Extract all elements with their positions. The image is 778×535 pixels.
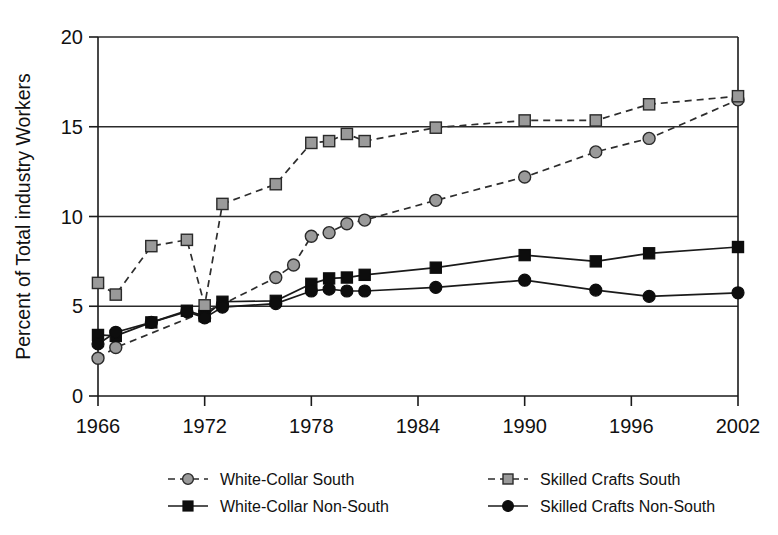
data-point [145, 316, 157, 328]
data-point [270, 298, 282, 310]
data-point [359, 269, 370, 280]
data-point [430, 262, 441, 273]
data-point [92, 338, 104, 350]
x-tick-label-1984: 1984 [396, 415, 441, 437]
data-point [732, 91, 743, 102]
x-tick-label-1966: 1966 [76, 415, 121, 437]
data-point [110, 289, 121, 300]
data-point [305, 285, 317, 297]
data-point [341, 128, 352, 139]
data-point [146, 241, 157, 252]
y-tick-label-20: 20 [61, 26, 83, 48]
data-point [590, 284, 602, 296]
x-tick-label-1990: 1990 [502, 415, 547, 437]
data-point [643, 132, 655, 144]
chart-background [0, 0, 778, 535]
data-point [92, 352, 104, 364]
data-point [305, 230, 317, 242]
data-point [590, 256, 601, 267]
data-point [732, 241, 743, 252]
data-point [359, 136, 370, 147]
y-tick-label-0: 0 [72, 385, 83, 407]
data-point [430, 194, 442, 206]
y-axis-title: Percent of Total industry Workers [12, 73, 34, 360]
data-point [324, 273, 335, 284]
data-point [341, 218, 353, 230]
legend-label: Skilled Crafts Non-South [540, 498, 715, 515]
data-point [92, 277, 103, 288]
data-point [288, 259, 300, 271]
data-point [181, 234, 192, 245]
data-point [430, 122, 441, 133]
line-chart: 05101520 1966197219781984199019962002 Pe… [0, 0, 778, 535]
data-point [306, 137, 317, 148]
legend-marker [183, 474, 194, 485]
data-point [199, 300, 210, 311]
legend-marker [503, 501, 514, 512]
y-tick-label-10: 10 [61, 206, 83, 228]
y-tick-label-15: 15 [61, 116, 83, 138]
x-tick-label-1972: 1972 [182, 415, 227, 437]
x-tick-label-2002: 2002 [716, 415, 761, 437]
data-point [643, 290, 655, 302]
y-tick-label-5: 5 [72, 295, 83, 317]
data-point [644, 248, 655, 259]
legend-marker [503, 474, 513, 484]
legend-label: White-Collar Non-South [220, 498, 389, 515]
data-point [644, 99, 655, 110]
legend-label: Skilled Crafts South [540, 471, 681, 488]
data-point [519, 249, 530, 260]
data-point [359, 214, 371, 226]
data-point [341, 285, 353, 297]
data-point [341, 272, 352, 283]
data-point [270, 179, 281, 190]
chart-figure: 05101520 1966197219781984199019962002 Pe… [0, 0, 778, 535]
data-point [590, 115, 601, 126]
data-point [732, 287, 744, 299]
data-point [199, 312, 211, 324]
x-tick-label-1996: 1996 [609, 415, 654, 437]
data-point [324, 136, 335, 147]
data-point [110, 342, 122, 354]
x-tick-label-1978: 1978 [289, 415, 334, 437]
data-point [359, 285, 371, 297]
data-point [519, 115, 530, 126]
data-point [181, 306, 193, 318]
data-point [323, 283, 335, 295]
data-point [519, 274, 531, 286]
data-point [216, 301, 228, 313]
legend-label: White-Collar South [220, 471, 354, 488]
data-point [430, 281, 442, 293]
data-point [270, 272, 282, 284]
data-point [217, 198, 228, 209]
data-point [323, 227, 335, 239]
legend-marker [183, 501, 193, 511]
data-point [110, 326, 122, 338]
data-point [590, 146, 602, 158]
data-point [519, 171, 531, 183]
